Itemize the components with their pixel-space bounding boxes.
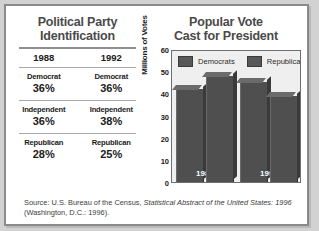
source-prefix: Source: U.S. Bureau of the Census, bbox=[24, 198, 144, 207]
party-label: Republican bbox=[78, 136, 146, 147]
chart-bar: 1992 bbox=[240, 82, 268, 182]
y-tick-label: 60 bbox=[161, 46, 169, 55]
figure-frame: Political Party Identification 1988 1992… bbox=[4, 4, 309, 226]
party-label: Democrat bbox=[10, 70, 78, 81]
y-tick-label: 40 bbox=[161, 90, 169, 99]
table-row: Democrat Democrat 36% 36% bbox=[10, 70, 145, 96]
y-tick-label: 20 bbox=[161, 134, 169, 143]
y-tick-label: 10 bbox=[161, 156, 169, 165]
chart-bar bbox=[270, 96, 298, 182]
source-italic-year: 1996 bbox=[275, 198, 291, 207]
y-tick-label: 50 bbox=[161, 68, 169, 77]
bar-side-face bbox=[233, 70, 237, 180]
chart-bars: 19881992 bbox=[172, 51, 300, 182]
table-rule-3 bbox=[19, 133, 136, 134]
table-rule-1 bbox=[19, 67, 136, 68]
popular-vote-chart: Popular Vote Cast for President Millions… bbox=[145, 9, 307, 194]
bar-top-face bbox=[202, 72, 232, 77]
party-value: 36% bbox=[78, 81, 146, 96]
bar-side-face bbox=[297, 90, 301, 180]
party-value: 38% bbox=[78, 114, 146, 129]
table-year-header-row: 1988 1992 bbox=[10, 52, 145, 63]
party-value: 28% bbox=[10, 147, 78, 162]
bar-top-face bbox=[266, 92, 296, 97]
chart-y-axis-label: Millions of Votes bbox=[140, 10, 149, 80]
table-title-line1: Political Party bbox=[10, 15, 145, 29]
chart-bar bbox=[206, 76, 234, 182]
source-suffix: (Washington, D.C.: 1996). bbox=[24, 208, 109, 217]
political-party-table: Political Party Identification 1988 1992… bbox=[10, 9, 145, 194]
y-tick-label: 0 bbox=[165, 179, 169, 188]
y-tick-label: 30 bbox=[161, 112, 169, 121]
party-value: 36% bbox=[10, 114, 78, 129]
table-title-line2: Identification bbox=[10, 29, 145, 43]
table-year-1988: 1988 bbox=[10, 52, 78, 63]
table-rule-top bbox=[19, 47, 136, 49]
party-label: Independent bbox=[10, 103, 78, 114]
chart-title-line2: Cast for President bbox=[145, 29, 307, 43]
chart-y-axis-ticks: 6050403020100 bbox=[153, 50, 169, 183]
party-label: Republican bbox=[10, 136, 78, 147]
bar-top-face bbox=[236, 78, 266, 83]
table-row: Independent Independent 36% 38% bbox=[10, 103, 145, 129]
chart-title-line1: Popular Vote bbox=[145, 15, 307, 29]
bar-top-face bbox=[172, 85, 202, 90]
chart-plot-area: Democrats Republicans 19881992 bbox=[171, 50, 301, 183]
party-label: Democrat bbox=[78, 70, 146, 81]
source-note: Source: U.S. Bureau of the Census, Stati… bbox=[24, 198, 302, 217]
table-year-1992: 1992 bbox=[78, 52, 146, 63]
party-value: 36% bbox=[10, 81, 78, 96]
chart-bar: 1988 bbox=[176, 89, 204, 182]
table-title: Political Party Identification bbox=[10, 9, 145, 43]
chart-title: Popular Vote Cast for President bbox=[145, 9, 307, 43]
party-value: 25% bbox=[78, 147, 146, 162]
table-row: Republican Republican 28% 25% bbox=[10, 136, 145, 162]
figure-root: Political Party Identification 1988 1992… bbox=[0, 0, 319, 231]
source-italic-title: Statistical Abstract of the United State… bbox=[144, 198, 274, 207]
party-label: Independent bbox=[78, 103, 146, 114]
table-rule-2 bbox=[19, 100, 136, 101]
